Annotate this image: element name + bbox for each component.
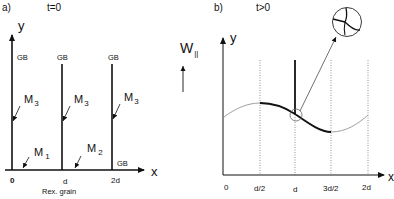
tick-label: 0 — [10, 176, 15, 185]
zoom-pointer — [300, 37, 336, 111]
boundary-curve — [224, 103, 368, 132]
m2-arrow — [75, 156, 81, 168]
panel-a-label: a) — [2, 2, 11, 13]
tick-label: 2d — [111, 176, 120, 185]
tick-label: d — [63, 177, 67, 186]
magnified-inset — [333, 8, 362, 37]
velocity-indicator: W|| — [180, 40, 198, 92]
gb-label: GB — [117, 159, 128, 168]
y-axis-a-label: y — [18, 18, 25, 33]
tick-label: 2d — [362, 183, 371, 192]
m2-label: M2 — [87, 142, 103, 157]
tick-label: 3d/2 — [323, 184, 339, 193]
x-axis-b-label: x — [388, 170, 394, 184]
panel-b: b) t>0 y x 0 d/2 d 3d — [214, 2, 394, 194]
m1-label: M1 — [34, 146, 50, 161]
m1-arrow — [23, 157, 29, 168]
m3-arrow — [113, 104, 120, 119]
tick-label: d/2 — [254, 184, 266, 193]
tick-label: 0 — [224, 183, 229, 192]
rex-grain-caption: Rex. grain — [42, 187, 76, 196]
x-axis-a-label: x — [151, 164, 158, 179]
diagram-canvas: a) t=0 y x GB GB GB GB M3 M3 M3 M1 M2 0 … — [0, 0, 394, 199]
y-axis-b-label: y — [230, 30, 237, 45]
m3-label: M3 — [124, 91, 139, 106]
tick-label: d — [293, 185, 297, 194]
panel-b-label: b) — [214, 2, 223, 13]
m3-arrow — [13, 106, 20, 121]
gb-label: GB — [17, 53, 28, 62]
m3-label: M3 — [74, 93, 89, 108]
gb-label: GB — [108, 53, 119, 62]
m3-label: M3 — [24, 93, 39, 108]
panel-b-time: t>0 — [256, 2, 271, 13]
panel-a: a) t=0 y x GB GB GB GB M3 M3 M3 M1 M2 0 … — [2, 2, 158, 196]
panel-a-time: t=0 — [47, 2, 62, 13]
m3-arrow — [63, 106, 70, 121]
gb-label: GB — [57, 53, 68, 62]
velocity-label: W|| — [180, 40, 198, 58]
